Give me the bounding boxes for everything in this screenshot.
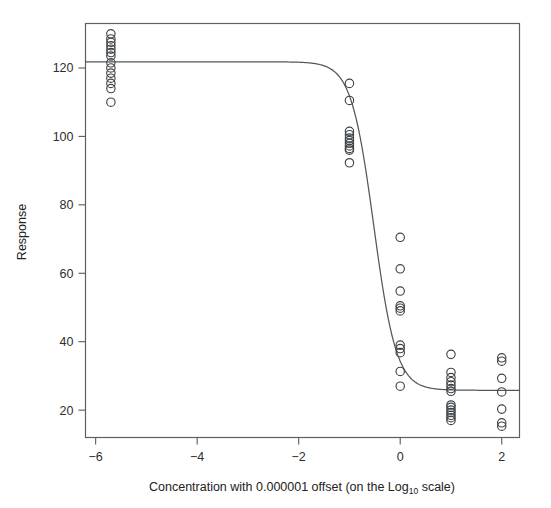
y-tick-label: 40 bbox=[60, 335, 74, 349]
x-tick-label: 2 bbox=[498, 450, 505, 464]
y-axis-title-text: Response bbox=[15, 204, 29, 260]
y-tick-label: 80 bbox=[60, 198, 74, 212]
plot-background bbox=[0, 0, 551, 508]
y-tick-label: 20 bbox=[60, 404, 74, 418]
y-tick-label: 60 bbox=[60, 267, 74, 281]
x-axis-title-subscript: 10 bbox=[409, 486, 419, 496]
x-axis-title-text: Concentration with 0.000001 offset (on t… bbox=[149, 480, 409, 494]
x-tick-label: −2 bbox=[292, 450, 306, 464]
x-axis-title-tail: scale) bbox=[418, 480, 455, 494]
y-tick-label: 120 bbox=[53, 61, 74, 75]
scatter-plot-canvas: −6−4−202 20406080100120 Concentration wi… bbox=[0, 0, 551, 508]
x-tick-label: −6 bbox=[89, 450, 103, 464]
y-tick-label: 100 bbox=[53, 130, 74, 144]
x-tick-label: −4 bbox=[190, 450, 204, 464]
dose-response-figure: −6−4−202 20406080100120 Concentration wi… bbox=[0, 0, 551, 508]
y-axis-title: Response bbox=[15, 204, 29, 260]
x-tick-label: 0 bbox=[397, 450, 404, 464]
